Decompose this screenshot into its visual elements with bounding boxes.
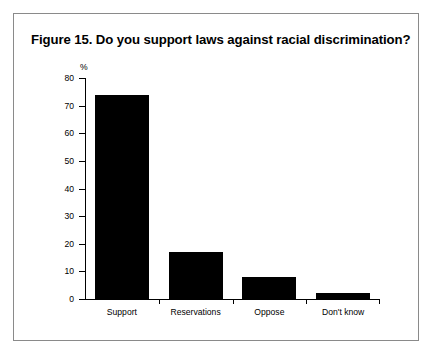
y-axis-tick [79,133,85,134]
bar [316,293,370,299]
x-axis-tick [159,299,160,304]
x-axis-tick-label: Support [85,307,159,317]
y-axis-tick [79,106,85,107]
y-axis-tick [79,161,85,162]
y-axis-tick [79,189,85,190]
y-axis-tick [79,244,85,245]
y-axis-tick-label: 40 [28,184,74,194]
y-axis-tick [79,216,85,217]
y-axis-tick-label: 30 [28,211,74,221]
y-axis-tick-label: 20 [28,239,74,249]
x-axis-tick-label: Don't know [306,307,380,317]
bar [242,277,296,299]
y-axis-tick-label: 60 [28,128,74,138]
y-axis-tick [79,78,85,79]
y-axis-tick-label: 0 [28,294,74,304]
figure-panel: Figure 15. Do you support laws against r… [13,13,419,341]
y-axis-unit-label: % [80,62,88,72]
y-axis-tick-label: 70 [28,101,74,111]
y-axis-tick-label: 10 [28,266,74,276]
y-axis-tick-label: 50 [28,156,74,166]
x-axis-tick [379,299,380,304]
bar-chart: % 01020304050607080 SupportReservationsO… [14,14,420,342]
x-axis-tick-label: Reservations [159,307,233,317]
x-axis-tick [233,299,234,304]
x-axis-tick [306,299,307,304]
y-axis-line [85,78,86,300]
bar [169,252,223,299]
y-axis-tick [79,299,85,300]
y-axis-tick [79,271,85,272]
bar [95,95,149,299]
y-axis-tick-label: 80 [28,73,74,83]
x-axis-tick-label: Oppose [233,307,307,317]
